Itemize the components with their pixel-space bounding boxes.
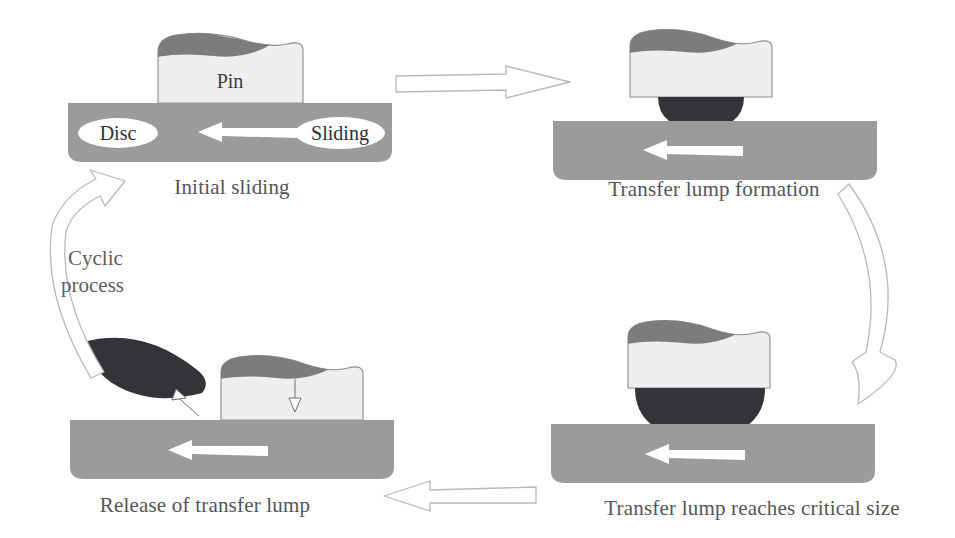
- process-cycle-diagram: Pin Disc Sliding Initial sliding: [0, 0, 955, 538]
- diagram-root: Pin Disc Sliding Initial sliding: [0, 0, 955, 538]
- stage-critical-size: Transfer lump reaches critical size: [551, 317, 900, 520]
- stage-caption-release: Release of transfer lump: [100, 493, 311, 517]
- pin-bottom-left: [210, 352, 363, 420]
- sliding-label: Sliding: [311, 122, 369, 145]
- stage-transfer-lump-formation: Transfer lump formation: [553, 26, 877, 201]
- connector-top-arrow: [396, 66, 570, 98]
- disc-bottom-right: [551, 424, 875, 483]
- stage-initial-sliding: Pin Disc Sliding Initial sliding: [68, 30, 392, 199]
- pin-bottom-right: [617, 317, 770, 388]
- disc-bottom-left: [70, 420, 394, 479]
- pin-top-right: [619, 26, 772, 97]
- cyclic-process-line2: process: [61, 273, 124, 297]
- stage-caption-lump-formation: Transfer lump formation: [608, 177, 820, 201]
- disc-top-left: Disc Sliding: [68, 103, 392, 162]
- stage-release: Release of transfer lump: [70, 338, 394, 517]
- pin-label: Pin: [217, 70, 244, 92]
- connector-bottom-arrow: [384, 481, 536, 511]
- disc-top-right: [553, 121, 877, 180]
- cyclic-process-line1: Cyclic: [68, 246, 123, 270]
- connector-right-arrow: [838, 184, 896, 404]
- disc-label: Disc: [100, 122, 137, 144]
- stage-caption-initial-sliding: Initial sliding: [174, 175, 290, 199]
- cyclic-process-label: Cyclic process: [61, 246, 124, 297]
- pin-top-left: Pin: [147, 30, 303, 103]
- stage-caption-critical-size: Transfer lump reaches critical size: [604, 496, 899, 520]
